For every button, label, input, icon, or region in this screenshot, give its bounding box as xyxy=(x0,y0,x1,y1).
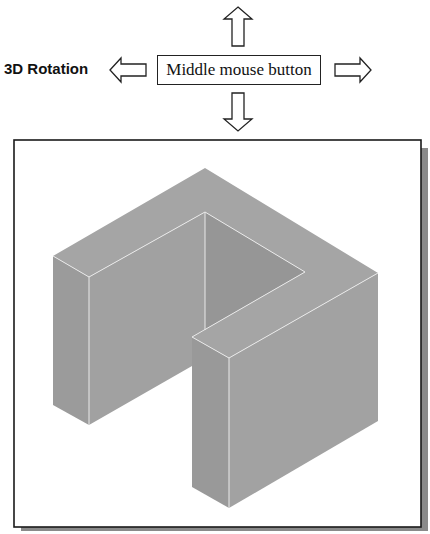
arrow-up-icon xyxy=(224,7,252,46)
arrow-right-icon xyxy=(335,58,371,82)
middle-mouse-button-box: Middle mouse button xyxy=(157,55,321,85)
arrow-left-icon xyxy=(110,58,146,82)
left-post-side xyxy=(53,256,89,425)
arrow-down-icon xyxy=(224,93,252,131)
right-post-side xyxy=(192,337,229,508)
